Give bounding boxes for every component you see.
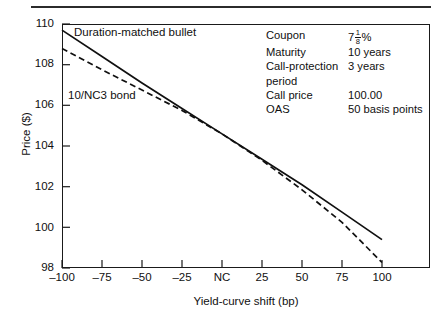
annotation-row-coupon: Coupon 718% bbox=[266, 29, 423, 46]
annotation-value-period bbox=[348, 75, 423, 89]
annotation-key-maturity: Maturity bbox=[266, 46, 348, 60]
y-tick-marks bbox=[62, 24, 70, 268]
x-tick-marks bbox=[62, 260, 382, 268]
series-label-callable: 10/NC3 bond bbox=[68, 89, 136, 101]
annotation-key-period: period bbox=[266, 75, 348, 89]
coupon-whole: 7 bbox=[348, 31, 354, 43]
annotation-row-call-price: Call price 100.00 bbox=[266, 89, 423, 103]
annotation-key-oas: OAS bbox=[266, 103, 348, 117]
annotation-value-call-price: 100.00 bbox=[348, 89, 423, 103]
price-yield-chart-figure: 110 108 106 104 102 100 98 –100 –75 –50 … bbox=[0, 0, 448, 319]
annotation-row-period: period bbox=[266, 75, 423, 89]
coupon-percent-sign: % bbox=[361, 31, 371, 43]
annotation-row-maturity: Maturity 10 years bbox=[266, 46, 423, 60]
annotation-key-call-protection: Call-protection bbox=[266, 60, 348, 74]
bond-terms-annotation: Coupon 718% Maturity 10 years Call-prote… bbox=[266, 29, 423, 117]
series-label-bullet: Duration-matched bullet bbox=[74, 26, 196, 38]
annotation-key-call-price: Call price bbox=[266, 89, 348, 103]
annotation-value-oas: 50 basis points bbox=[348, 103, 423, 117]
annotation-value-coupon: 718% bbox=[348, 29, 423, 46]
annotation-row-call-protection: Call-protection 3 years bbox=[266, 60, 423, 74]
annotation-value-call-protection: 3 years bbox=[348, 60, 423, 74]
annotation-key-coupon: Coupon bbox=[266, 29, 348, 46]
annotation-value-maturity: 10 years bbox=[348, 46, 423, 60]
annotation-row-oas: OAS 50 basis points bbox=[266, 103, 423, 117]
